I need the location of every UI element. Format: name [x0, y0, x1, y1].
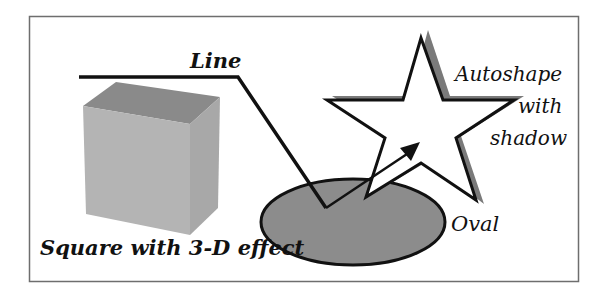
square-3d-shape[interactable]	[83, 82, 220, 235]
square-label: Square with 3-D effect	[40, 237, 304, 258]
line-label: Line	[190, 50, 241, 71]
autoshape-label-line3: shadow	[490, 128, 567, 148]
autoshape-label-line1: Autoshape	[455, 64, 562, 84]
diagram-canvas: Line Autoshape with shadow Oval Square w…	[0, 0, 606, 299]
cube-front-face	[83, 106, 190, 235]
autoshape-label-line2: with	[518, 96, 562, 116]
oval-label: Oval	[451, 214, 499, 235]
